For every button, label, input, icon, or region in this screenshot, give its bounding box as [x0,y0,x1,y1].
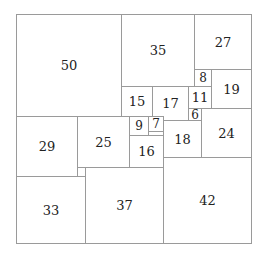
square-27: 27 [194,14,252,70]
square-label: 35 [150,43,167,58]
square-label: 37 [116,198,133,213]
square-label: 19 [223,82,240,97]
square-15: 15 [121,86,153,117]
square-16: 16 [129,135,164,168]
square-label: 17 [162,96,179,111]
square-label: 50 [61,58,78,73]
square-label: 9 [135,119,143,133]
square-label: 25 [95,135,112,150]
square-8: 8 [194,69,212,87]
square-7: 7 [148,116,164,132]
square-label: 29 [39,139,56,154]
square-label: 33 [43,203,60,218]
square-29: 29 [16,116,78,177]
square-35: 35 [121,14,195,87]
square-label: 27 [215,35,232,50]
square-11: 11 [188,86,212,109]
square-label: 24 [218,126,235,141]
squared-square-diagram: 5035278191517116242925971816423733 [16,14,251,243]
square-42: 42 [163,157,252,244]
square-33: 33 [16,176,86,244]
square-24: 24 [201,108,252,158]
square-label: 18 [174,132,191,147]
square-19: 19 [211,69,252,109]
square-label: 11 [192,90,209,105]
square-25: 25 [77,116,130,168]
square-label: 7 [152,117,160,131]
square-label: 15 [129,94,146,109]
square-label: 16 [138,144,155,159]
square-label: 42 [199,193,216,208]
square-label: 8 [199,71,207,85]
square-50: 50 [16,14,122,117]
square-9: 9 [129,116,149,136]
square-37: 37 [85,167,164,244]
square-18: 18 [163,120,202,158]
